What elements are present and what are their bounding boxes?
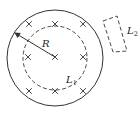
loop-l2 [103,16,127,52]
loop-l2-label: L2 [126,25,138,38]
loop-l1 [23,26,87,90]
radius-label: R [41,38,50,49]
diagram-canvas: R L1 L2 [0,0,140,117]
loop-l1-label: L1 [65,74,77,87]
